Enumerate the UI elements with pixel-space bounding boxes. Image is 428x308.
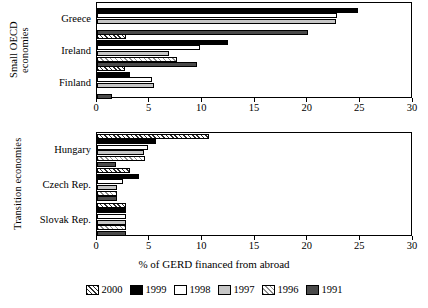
bar xyxy=(97,214,126,219)
bar xyxy=(97,72,130,77)
axis-tick-label: 20 xyxy=(301,240,312,251)
legend-swatch xyxy=(86,285,99,295)
bar xyxy=(97,134,209,139)
panel-bottom-category-labels: HungaryCzech Rep.Slovak Rep. xyxy=(18,132,94,236)
legend-swatch xyxy=(174,285,187,295)
bar xyxy=(97,19,336,24)
chart-legend: 200019991998199719961991 xyxy=(0,284,428,295)
panel-top-x-axis: 051015202530 xyxy=(96,98,412,120)
axis-tick-label: 20 xyxy=(301,102,312,113)
bar xyxy=(97,150,144,155)
legend-label: 2000 xyxy=(102,284,123,295)
legend-label: 1998 xyxy=(190,284,211,295)
bar xyxy=(97,45,200,50)
bar xyxy=(97,220,126,225)
axis-tick-label: 5 xyxy=(146,102,151,113)
legend-item[interactable]: 1991 xyxy=(306,284,343,295)
axis-tick-label: 15 xyxy=(249,240,260,251)
panel-top-plot-area xyxy=(96,2,412,98)
panel-top-category-labels: GreeceIrelandFinland xyxy=(34,2,94,98)
bar xyxy=(97,208,126,213)
category-label: Czech Rep. xyxy=(43,179,91,190)
panel-small-oecd-economies: Small OECD economies GreeceIrelandFinlan… xyxy=(0,2,428,120)
legend-label: 1997 xyxy=(234,284,255,295)
category-label: Greece xyxy=(61,13,91,24)
bar xyxy=(97,191,117,196)
bar xyxy=(97,8,358,13)
legend-label: 1999 xyxy=(146,284,167,295)
axis-tick-label: 15 xyxy=(249,102,260,113)
bar xyxy=(97,139,156,144)
bar xyxy=(97,174,139,179)
axis-tick-label: 30 xyxy=(407,102,418,113)
bar xyxy=(97,66,125,71)
legend-item[interactable]: 2000 xyxy=(86,284,123,295)
axis-tick-label: 30 xyxy=(407,240,418,251)
legend-item[interactable]: 1997 xyxy=(218,284,255,295)
legend-swatch xyxy=(130,285,143,295)
bar xyxy=(97,30,308,35)
category-label: Finland xyxy=(59,77,91,88)
axis-tick-label: 25 xyxy=(354,240,365,251)
bar xyxy=(97,225,126,230)
legend-label: 1996 xyxy=(278,284,299,295)
bar xyxy=(97,156,145,161)
legend-label: 1991 xyxy=(322,284,343,295)
panel-bottom-bars xyxy=(97,133,411,235)
bar xyxy=(97,13,337,18)
axis-tick-label: 5 xyxy=(146,240,151,251)
x-axis-label: % of GERD financed from abroad xyxy=(0,258,428,270)
legend-item[interactable]: 1999 xyxy=(130,284,167,295)
panel-bottom-plot-area xyxy=(96,132,412,236)
bar xyxy=(97,40,228,45)
category-label: Ireland xyxy=(61,45,91,56)
bar xyxy=(97,57,177,62)
legend-item[interactable]: 1996 xyxy=(262,284,299,295)
bar xyxy=(97,145,148,150)
bar xyxy=(97,51,169,56)
bar xyxy=(97,77,152,82)
legend-swatch xyxy=(218,285,231,295)
bar xyxy=(97,203,126,208)
category-label: Slovak Rep. xyxy=(40,213,91,224)
axis-tick-label: 0 xyxy=(93,240,98,251)
axis-tick-label: 0 xyxy=(93,102,98,113)
chart-figure: Small OECD economies GreeceIrelandFinlan… xyxy=(0,0,428,308)
category-label: Hungary xyxy=(54,144,91,155)
legend-swatch xyxy=(306,285,319,295)
axis-tick-label: 10 xyxy=(196,240,207,251)
panel-top-group-title: Small OECD economies xyxy=(8,2,34,98)
bar xyxy=(97,185,117,190)
axis-tick-label: 10 xyxy=(196,102,207,113)
panel-transition-economies: Transition economies HungaryCzech Rep.Sl… xyxy=(0,132,428,254)
panel-bottom-x-axis: 051015202530 xyxy=(96,236,412,258)
bar xyxy=(97,83,154,88)
legend-swatch xyxy=(262,285,275,295)
axis-tick-label: 25 xyxy=(354,102,365,113)
bar xyxy=(97,168,130,173)
panel-top-bars xyxy=(97,3,411,97)
bar xyxy=(97,196,117,201)
bar xyxy=(97,179,123,184)
legend-item[interactable]: 1998 xyxy=(174,284,211,295)
bar xyxy=(97,34,126,39)
bar xyxy=(97,162,116,167)
